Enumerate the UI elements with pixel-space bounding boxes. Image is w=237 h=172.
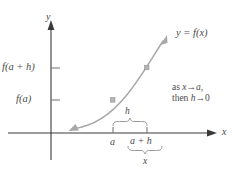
- x-axis-ticks: [113, 127, 147, 133]
- figure-canvas: y x f(a + h) f(a) a a + h y = f(x) h x a…: [0, 0, 237, 172]
- x-tick-label-a-plus-h: a + h: [130, 135, 152, 147]
- x-tick-label-a: a: [110, 136, 115, 148]
- y-axis-ticks: [51, 68, 60, 100]
- limit-annotation-line-2: then h→0: [172, 93, 210, 104]
- x-brace-label: x: [143, 156, 147, 167]
- h-brace: [113, 118, 147, 126]
- x-axis-label: x: [222, 126, 226, 138]
- y-tick-label-f-a: f(a): [16, 93, 31, 105]
- y-axis-label: y: [46, 11, 50, 23]
- x-axis-arrowhead: [207, 130, 217, 137]
- y-tick-label-f-a-plus-h: f(a + h): [2, 61, 35, 73]
- y-axis: [48, 20, 55, 160]
- h-brace-label: h: [125, 106, 130, 117]
- curve-point-a-plus-h: [144, 65, 149, 70]
- limit-line2-arrow: →: [195, 93, 205, 103]
- function-curve: [69, 35, 168, 131]
- x-brace: [128, 146, 162, 154]
- limit-line2-prefix: then: [172, 93, 191, 103]
- limit-line2-target: 0: [205, 93, 210, 103]
- curve-point-a: [110, 98, 115, 103]
- limit-line1-arrow: →: [187, 82, 197, 92]
- limit-annotation-line-1: as x→a,: [172, 82, 210, 93]
- limit-annotation: as x→a, then h→0: [172, 82, 210, 104]
- curve-right-arrowhead: [160, 35, 168, 45]
- limit-line1-suffix: ,: [201, 82, 203, 92]
- limit-line1-prefix: as: [172, 82, 182, 92]
- curve-equation-label: y = f(x): [176, 27, 208, 39]
